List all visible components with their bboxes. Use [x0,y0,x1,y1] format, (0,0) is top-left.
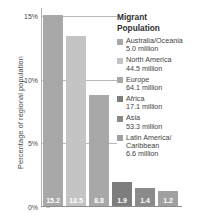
legend-value-europe: 64.1 million [126,84,162,92]
legend-label-europe: Europe 64.1 million [126,76,162,93]
bar-value-label-asia: 1.4 [135,196,155,205]
legend-label-north-america: North America 44.5 million [126,56,172,73]
legend-value-asia: 53.3 million [126,123,162,131]
legend-item-europe[interactable]: Europe 64.1 million [117,76,206,93]
legend-item-north-america[interactable]: North America 44.5 million [117,56,206,73]
legend-item-latin-america-caribbean[interactable]: Latin America/ Caribbean 6.6 million [117,134,206,159]
legend-label-africa: Africa 17.1 million [126,95,162,112]
legend: Migrant Population Australia/Oceania 5.0… [117,12,206,161]
bar-value-label-latin-america-caribbean: 1.2 [158,196,178,205]
legend-title-line1: Migrant [117,12,147,22]
bar-north-america[interactable] [66,36,86,206]
y-axis-ticks: 15% 10% 5% 0% [8,0,38,221]
legend-value-north-america: 44.5 million [126,65,172,73]
legend-swatch-icon-africa [117,96,123,102]
y-tick-label-5: 5% [8,140,38,147]
bar-value-label-europe: 8.8 [89,196,109,205]
y-tick-label-0: 0% [8,204,38,211]
bar-australia-oceania[interactable] [43,15,63,206]
y-tick-label-10: 10% [8,76,38,83]
legend-item-australia-oceania[interactable]: Australia/Oceania 5.0 million [117,37,206,54]
legend-swatch-icon-australia-oceania [117,39,123,45]
legend-swatch-icon-europe [117,77,123,83]
legend-value-latin-america-caribbean: 6.6 million [126,150,172,158]
legend-label-asia: Asia 53.3 million [126,114,162,131]
legend-title-line2: Population [117,23,160,33]
legend-item-africa[interactable]: Africa 17.1 million [117,95,206,112]
bar-value-label-africa: 1.9 [112,196,132,205]
x-axis-baseline [41,206,182,207]
legend-value-australia-oceania: 5.0 million [126,45,183,53]
legend-label-australia-oceania: Australia/Oceania 5.0 million [126,37,183,54]
bar-europe[interactable] [89,95,109,206]
bar-value-label-north-america: 13.5 [66,196,86,205]
legend-title: Migrant Population [117,12,206,33]
legend-value-africa: 17.1 million [126,103,162,111]
legend-swatch-icon-north-america [117,58,123,64]
bar-value-label-australia-oceania: 15.2 [43,196,63,205]
legend-label-latin-america-caribbean: Latin America/ Caribbean 6.6 million [126,134,172,159]
legend-swatch-icon-asia [117,116,123,122]
legend-item-asia[interactable]: Asia 53.3 million [117,114,206,131]
migrant-population-bar-chart: Percentage of regional population 15% 10… [0,0,206,221]
y-tick-label-15: 15% [8,13,38,20]
legend-swatch-icon-latin-america-caribbean [117,135,123,141]
